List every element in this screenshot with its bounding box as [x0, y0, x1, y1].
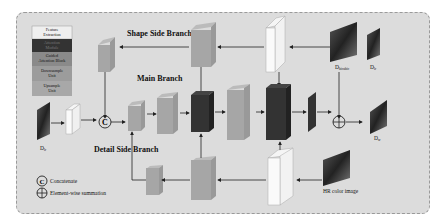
block-side — [110, 37, 115, 72]
arrow — [132, 132, 146, 180]
attention-block — [266, 88, 286, 140]
hr-color-image-label: HR color image — [323, 188, 359, 194]
shape-feature-block — [266, 28, 275, 72]
block-side — [173, 92, 178, 134]
legend-label: Extraction — [43, 32, 61, 37]
input-label: Dlr — [40, 145, 47, 152]
downsample-block — [128, 106, 141, 131]
main-feature-block — [66, 110, 72, 134]
block-side — [141, 100, 145, 131]
block-side — [211, 22, 216, 67]
architecture-diagram: Feature Extraction Attention Module Guid… — [0, 0, 440, 221]
main-branch-label: Main Branch — [137, 74, 183, 83]
detail-block-mid — [191, 160, 211, 200]
block-side — [209, 91, 214, 132]
block-side — [211, 156, 216, 200]
bicubic-image — [330, 22, 357, 62]
lr-top-image — [367, 28, 380, 60]
attention-block — [191, 95, 209, 132]
thin-dark-block — [308, 92, 316, 132]
shape-branch-label: Shape Side Branch — [127, 29, 192, 38]
input-image — [37, 102, 50, 140]
block-side — [275, 16, 285, 72]
legend-label: Unit — [48, 88, 56, 93]
block-side — [244, 84, 250, 140]
legend-label: Module — [45, 45, 58, 50]
concatenate-legend-label: Concatenate — [50, 178, 78, 184]
shape-block-small — [98, 45, 110, 72]
legend: Feature Extraction Attention Module Guid… — [32, 26, 72, 96]
detail-branch-label: Detail Side Branch — [94, 145, 159, 154]
main-branch: Dlr C — [37, 84, 387, 152]
hr-color-image — [323, 150, 350, 186]
symbol-legend: C Concatenate Element-wise summation — [37, 176, 106, 198]
output-label: Dsr — [374, 135, 381, 142]
block-side — [286, 84, 291, 140]
lr-top-label: Dlr — [370, 64, 377, 71]
detail-block-small — [146, 168, 159, 195]
detail-feature-block — [268, 158, 280, 205]
upsample-block — [227, 90, 244, 140]
legend-label: Attention Block — [39, 58, 67, 63]
output-image — [370, 100, 387, 134]
concatenate-legend-glyph: C — [39, 178, 44, 186]
detail-branch: HR color image — [132, 132, 359, 205]
shape-block-mid — [191, 30, 211, 67]
legend-label: Unit — [48, 73, 56, 78]
shape-branch — [98, 16, 355, 72]
concatenate-glyph: C — [102, 118, 108, 127]
block-side — [280, 148, 293, 205]
sum-legend-label: Element-wise summation — [50, 190, 106, 196]
gray-block — [157, 98, 173, 134]
bicubic-label: Dbicubic — [335, 64, 350, 71]
